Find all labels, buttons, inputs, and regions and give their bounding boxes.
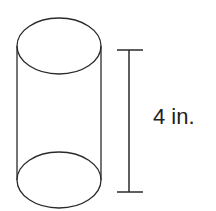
diagram-canvas: 4 in. xyxy=(0,0,216,211)
cylinder xyxy=(17,18,101,208)
height-dimension-line xyxy=(117,50,143,192)
cylinder-top-face xyxy=(17,18,101,74)
cylinder-bottom-face xyxy=(17,152,101,208)
height-label: 4 in. xyxy=(153,104,195,129)
cylinder-diagram: 4 in. xyxy=(0,0,216,211)
